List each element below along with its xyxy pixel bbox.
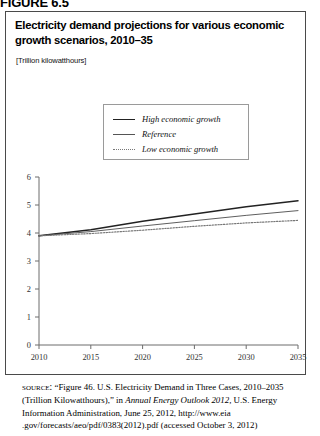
chart-plot-svg: 0123456 201020152020202520302035 [6,12,307,376]
source-publication-title: Annual Energy Outlook 2012, [125,395,231,405]
source-note: source: “Figure 46. U.S. Electricity Dem… [22,381,312,432]
svg-text:3: 3 [27,257,31,266]
svg-text:2035: 2035 [290,353,307,362]
svg-text:4: 4 [27,229,32,238]
svg-text:1: 1 [27,313,31,322]
series-line-reference [39,211,298,236]
svg-text:2015: 2015 [82,353,99,362]
series-line-low-economic-growth [39,220,298,235]
plot-area: 0123456 201020152020202520302035 [6,12,307,376]
x-axis-tick-labels: 201020152020202520302035 [31,353,307,362]
axes [39,177,298,345]
svg-text:0: 0 [27,341,31,350]
figure-container: Electricity demand projections for vario… [5,11,306,375]
y-axis-tick-labels: 0123456 [27,173,32,350]
data-series [39,201,298,236]
svg-text:2020: 2020 [134,353,151,362]
svg-text:2010: 2010 [31,353,48,362]
svg-text:2: 2 [27,285,31,294]
svg-text:5: 5 [27,201,31,210]
svg-text:2030: 2030 [238,353,255,362]
figure-label: FIGURE 6.5 [0,0,320,9]
axis-ticks [35,177,298,349]
series-line-high-economic-growth [39,201,298,236]
svg-text:2025: 2025 [186,353,203,362]
svg-text:6: 6 [27,173,31,182]
source-kicker: source: [22,382,52,392]
